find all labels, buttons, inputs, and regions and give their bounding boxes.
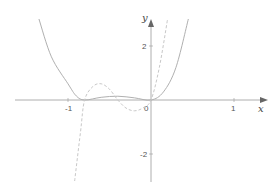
y-tick-label: -2 bbox=[140, 150, 148, 159]
x-axis-label: x bbox=[258, 103, 264, 114]
x-tick-label: -1 bbox=[65, 104, 73, 113]
y-tick-label: 2 bbox=[142, 42, 147, 51]
function-plot: -1012-2 x y bbox=[0, 0, 280, 188]
x-tick-label: 1 bbox=[231, 104, 236, 113]
y-axis-label: y bbox=[141, 12, 148, 23]
y-axis-arrow-icon bbox=[148, 19, 154, 27]
